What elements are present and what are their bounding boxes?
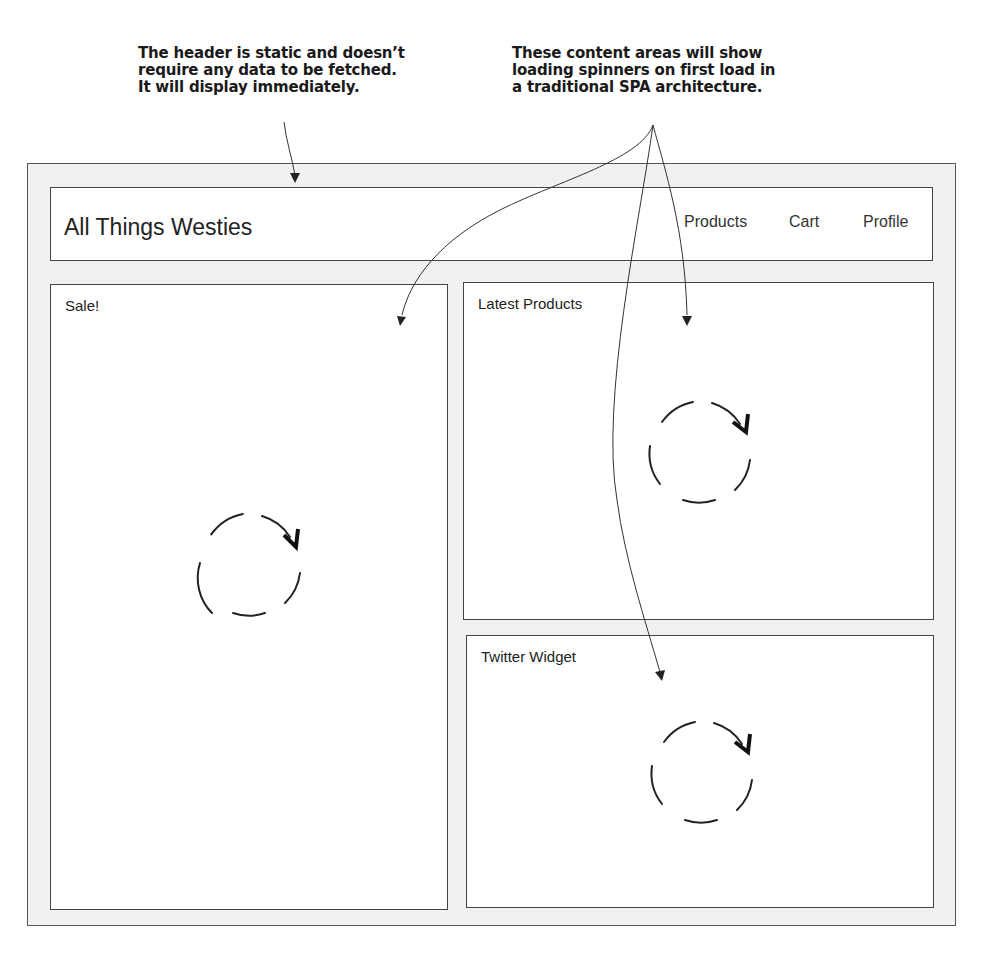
- content-annotation-line-2: loading spinners on first load in: [512, 62, 775, 79]
- header-annotation-line-2: require any data to be fetched.: [138, 62, 405, 79]
- twitter-widget-panel: Twitter Widget: [466, 635, 934, 908]
- header-annotation-line-1: The header is static and doesn’t: [138, 45, 405, 62]
- twitter-widget-panel-title: Twitter Widget: [481, 648, 576, 665]
- content-annotation-line-3: a traditional SPA architecture.: [512, 79, 775, 96]
- site-title[interactable]: All Things Westies: [64, 214, 252, 241]
- site-header: All Things Westies Products Cart Profile: [50, 187, 933, 261]
- content-annotation: These content areas will show loading sp…: [512, 45, 775, 96]
- latest-products-panel: Latest Products: [463, 282, 934, 620]
- nav-link-profile[interactable]: Profile: [863, 213, 908, 231]
- latest-products-panel-title: Latest Products: [478, 295, 582, 312]
- sale-panel: Sale!: [50, 284, 448, 910]
- header-annotation-line-3: It will display immediately.: [138, 79, 405, 96]
- nav-link-cart[interactable]: Cart: [789, 213, 819, 231]
- nav-link-products[interactable]: Products: [684, 213, 747, 231]
- content-annotation-line-1: These content areas will show: [512, 45, 775, 62]
- header-annotation: The header is static and doesn’t require…: [138, 45, 405, 96]
- sale-panel-title: Sale!: [65, 297, 99, 314]
